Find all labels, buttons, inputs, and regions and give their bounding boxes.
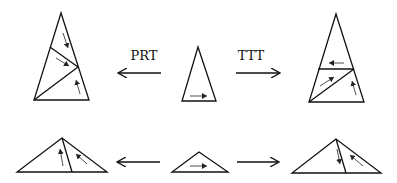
bottom-left-triangle [17, 138, 107, 172]
prt-label: PRT [131, 48, 158, 63]
ttt-transition: TTT [236, 48, 279, 73]
cut-line-2 [34, 67, 78, 100]
cut-line-1 [50, 47, 78, 67]
arrow-icon [76, 80, 80, 94]
top-left-triangle-prt [34, 13, 89, 100]
top-center-triangle [182, 47, 216, 101]
cut-line [336, 139, 346, 173]
arrow-icon [350, 155, 363, 166]
ttt-label: TTT [238, 48, 265, 63]
bottom-center-triangle [172, 152, 228, 172]
outer-triangle [34, 13, 89, 100]
arrow-icon [352, 81, 356, 95]
cut-line [62, 138, 72, 172]
source-triangle [182, 47, 216, 101]
arrow-icon [63, 33, 68, 48]
outer-triangle [17, 138, 107, 172]
bottom-right-triangle [292, 139, 381, 173]
outer-triangle [292, 139, 381, 173]
outer-triangle [309, 14, 364, 102]
arrow-icon [60, 149, 63, 166]
cut-line-diagonal [309, 69, 354, 102]
prt-transition: PRT [119, 48, 161, 73]
source-triangle [172, 152, 228, 172]
top-right-triangle-ttt [309, 14, 364, 102]
diagram-canvas: PRT TTT [0, 0, 397, 183]
